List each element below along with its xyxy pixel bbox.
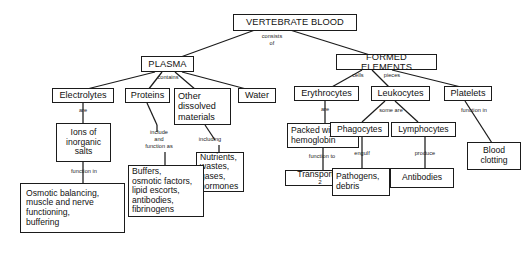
node-ions-of-inorganic-salts-label: Ions of inorganic salts [66,128,101,157]
node-water-label: Water [245,90,269,100]
node-buffers-osmotic-factors[interactable]: Buffers, osmotic factors, lipid escorts,… [128,165,204,217]
node-lymphocytes[interactable]: Lymphocytes [391,122,456,137]
node-blood-clotting-label: Blood clotting [480,146,507,165]
node-electrolytes[interactable]: Electrolytes [52,88,114,103]
link-label-function-in-ions: function in [64,168,104,175]
node-pathogens-label: Pathogens, debris [336,172,379,191]
node-leukocytes[interactable]: Leukocytes [371,86,430,101]
node-other-dissolved-materials-label: Other dissolved materials [178,91,216,122]
node-other-dissolved-materials[interactable]: Other dissolved materials [174,88,231,125]
node-formed-elements-label: FORMED ELEMENTS [340,52,433,73]
node-antibodies[interactable]: Antibodies [390,168,454,188]
link-label-consists-of: consists of [256,33,288,47]
node-osmotic-balancing-label: Osmotic balancing, muscle and nerve func… [26,189,99,228]
node-osmotic-balancing[interactable]: Osmotic balancing, muscle and nerve func… [20,183,125,233]
concept-map-canvas: VERTEBRATE BLOOD PLASMA FORMED ELEMENTS … [0,0,532,261]
node-plasma[interactable]: PLASMA [141,56,194,72]
node-phagocytes[interactable]: Phagocytes [330,122,389,137]
link-label-are-erythrocytes: are [313,106,337,113]
link-label-function-in-platelets: function in [452,107,496,114]
link-label-produce: produce [408,150,442,157]
link-label-are-electrolytes: are [71,107,95,114]
link-label-including: including [192,136,228,143]
node-erythrocytes-label: Erythrocytes [301,88,352,98]
link-label-cells: cells [346,72,370,79]
node-nutrients-label: Nutrients, wastes, gases, hormones [200,153,238,192]
node-formed-elements[interactable]: FORMED ELEMENTS [336,54,437,70]
link-label-contains: contains [148,74,188,81]
node-lymphocytes-label: Lymphocytes [398,125,448,135]
node-water[interactable]: Water [238,88,276,103]
node-vertebrate-blood[interactable]: VERTEBRATE BLOOD [233,14,357,31]
node-leukocytes-label: Leukocytes [377,88,423,98]
node-proteins[interactable]: Proteins [125,88,170,103]
node-antibodies-label: Antibodies [402,173,442,183]
node-electrolytes-label: Electrolytes [59,90,106,100]
link-label-engulf: engulf [348,150,376,157]
node-vertebrate-blood-label: VERTEBRATE BLOOD [246,17,344,27]
node-erythrocytes[interactable]: Erythrocytes [294,86,359,101]
node-blood-clotting[interactable]: Blood clotting [467,142,521,170]
node-phagocytes-label: Phagocytes [337,125,382,135]
link-label-pieces: pieces [378,72,406,79]
node-plasma-label: PLASMA [148,59,186,69]
node-proteins-label: Proteins [131,90,164,100]
node-platelets[interactable]: Platelets [444,86,492,101]
node-platelets-label: Platelets [451,88,486,98]
link-label-function-to: function to [300,153,344,160]
node-buffers-label: Buffers, osmotic factors, lipid escorts,… [132,167,192,215]
link-label-some-are: some are [373,107,409,114]
link-label-include-and-function-as: include and function as [132,129,186,150]
node-ions-of-inorganic-salts[interactable]: Ions of inorganic salts [56,123,111,162]
node-pathogens-debris[interactable]: Pathogens, debris [332,168,390,196]
